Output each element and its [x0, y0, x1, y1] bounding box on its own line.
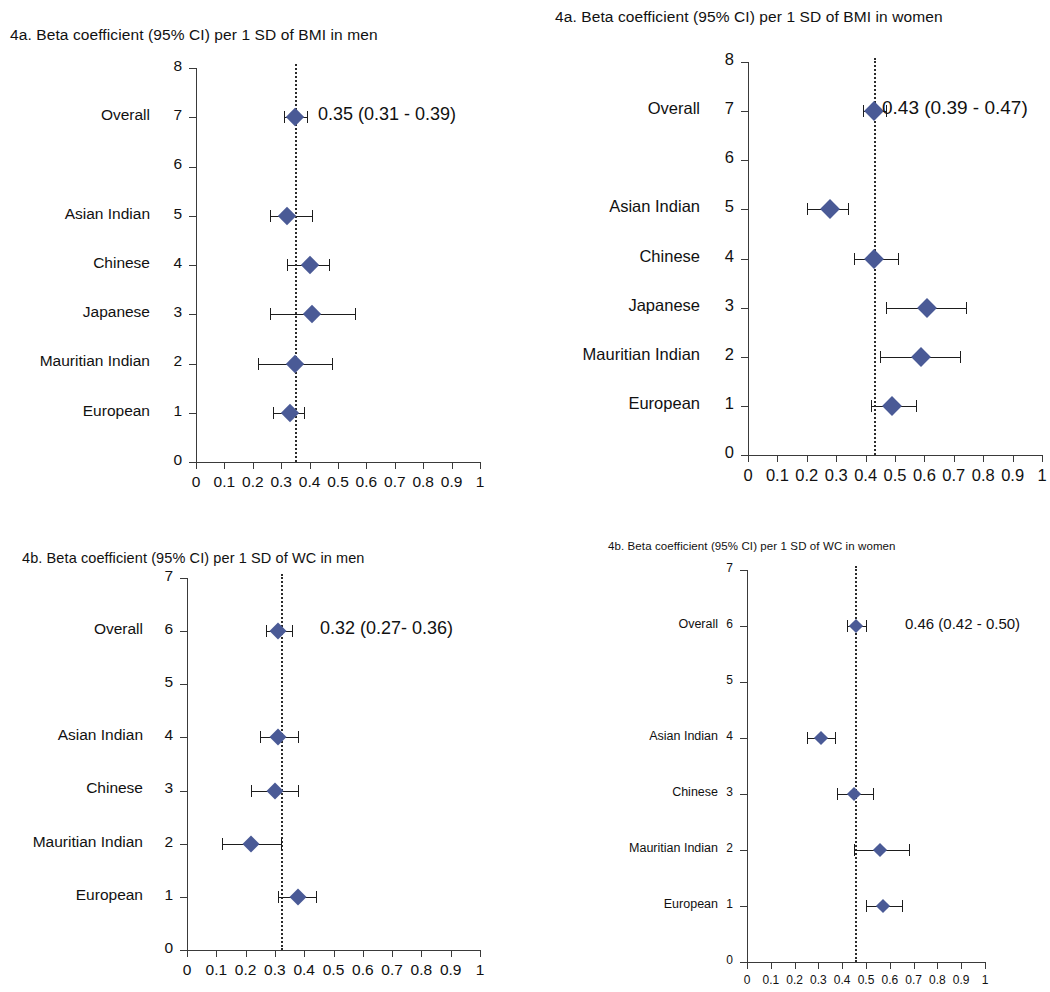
y-axis-tick: [740, 794, 747, 795]
x-axis-tick: [914, 962, 915, 969]
x-axis-tick: [890, 962, 891, 969]
row-label-chinese: Chinese: [458, 785, 718, 799]
y-axis-tick: [740, 738, 747, 739]
row-label-overall: Overall: [458, 617, 718, 631]
x-axis-tick: [985, 962, 986, 969]
y-axis-line: [747, 570, 748, 962]
x-axis-tick: [795, 962, 796, 969]
row-label-mauritian-indian: Mauritian Indian: [458, 841, 718, 855]
y-axis-tick: [740, 626, 747, 627]
x-axis-tick: [818, 962, 819, 969]
ci-cap-upper: [909, 844, 910, 856]
ci-cap-upper: [873, 788, 874, 800]
ci-cap-lower: [847, 620, 848, 632]
y-axis-tick-label: 7: [701, 561, 733, 575]
x-axis-tick: [866, 962, 867, 969]
y-axis-tick: [740, 850, 747, 851]
y-axis-tick-label: 0: [701, 953, 733, 967]
x-axis-tick: [771, 962, 772, 969]
ci-cap-lower: [866, 900, 867, 912]
x-axis-tick: [842, 962, 843, 969]
x-axis-tick: [961, 962, 962, 969]
ci-cap-upper: [835, 732, 836, 744]
ci-cap-lower: [807, 732, 808, 744]
y-axis-tick: [740, 682, 747, 683]
x-axis-tick: [937, 962, 938, 969]
ci-cap-upper: [902, 900, 903, 912]
panel-title: 4b. Beta coefficient (95% CI) per 1 SD o…: [608, 540, 896, 552]
y-axis-tick-label: 5: [701, 673, 733, 687]
row-label-european: European: [458, 897, 718, 911]
ci-cap-lower: [837, 788, 838, 800]
y-axis-tick: [740, 570, 747, 571]
overall-estimate-annotation: 0.46 (0.42 - 0.50): [905, 615, 1020, 632]
y-axis-tick: [740, 962, 747, 963]
x-axis-tick-label: 1: [963, 973, 1007, 987]
x-axis-tick: [747, 962, 748, 969]
row-label-asian-indian: Asian Indian: [458, 729, 718, 743]
ci-cap-upper: [866, 620, 867, 632]
ci-cap-lower: [854, 844, 855, 856]
y-axis-tick: [740, 906, 747, 907]
panel-wc-women: 4b. Beta coefficient (95% CI) per 1 SD o…: [0, 0, 1050, 992]
